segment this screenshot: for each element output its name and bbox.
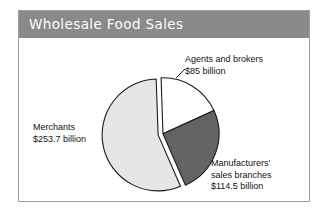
slice-label-agents-name: Agents and brokers: [185, 54, 263, 66]
plot-area: Agents and brokers $85 billion Merchants…: [19, 38, 309, 203]
pie-chart-figure: Wholesale Food Sales Agents and brokers …: [0, 0, 328, 212]
slice-label-agents-value: $85 billion: [185, 66, 263, 78]
slice-label-merchants: Merchants $253.7 billion: [33, 122, 86, 145]
chart-frame: Wholesale Food Sales Agents and brokers …: [18, 10, 310, 202]
slice-label-manufacturers-sales-branches: Manufacturers' sales branches $114.5 bil…: [211, 158, 272, 193]
title-banner: Wholesale Food Sales: [19, 11, 309, 38]
slice-label-manufacturers-value: $114.5 billion: [211, 181, 272, 193]
slice-label-manufacturers-name-2: sales branches: [211, 170, 272, 182]
page-title: Wholesale Food Sales: [29, 15, 183, 34]
slice-label-merchants-value: $253.7 billion: [33, 134, 86, 146]
slice-label-manufacturers-name-1: Manufacturers': [211, 158, 272, 170]
slice-label-agents-and-brokers: Agents and brokers $85 billion: [185, 54, 263, 77]
leader-line-agents: [176, 69, 185, 78]
slice-label-merchants-name: Merchants: [33, 122, 86, 134]
